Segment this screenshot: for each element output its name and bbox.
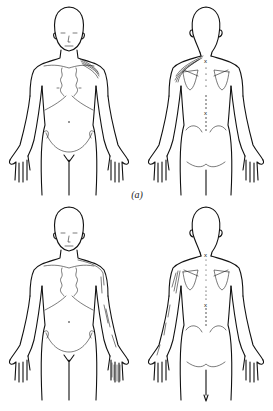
svg-text:x: x	[204, 58, 207, 64]
caption-a: (a)	[117, 189, 157, 200]
panel-a: x x (a)	[0, 0, 273, 205]
back-figure-b: x x	[148, 207, 263, 401]
panel-b: x x (b)	[0, 205, 273, 411]
body-diagram-b: x x	[0, 205, 273, 411]
svg-text:x: x	[204, 252, 207, 258]
svg-text:x: x	[204, 110, 207, 116]
front-figure-b	[9, 207, 128, 400]
back-figure-a: x x	[148, 7, 263, 195]
front-figure-a	[9, 7, 128, 195]
body-diagram-a: x x	[0, 0, 273, 205]
svg-text:x: x	[204, 302, 207, 308]
